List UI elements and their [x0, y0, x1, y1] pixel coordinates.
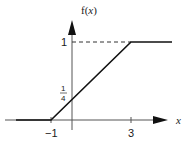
- y-axis-arrow-icon: [68, 20, 76, 35]
- x-axis-label: x: [175, 114, 181, 126]
- y-axis-label: f(x): [81, 4, 97, 17]
- function-line: [16, 42, 172, 120]
- x-axis-arrow-icon: [153, 116, 168, 124]
- x-tick-label-3: 3: [128, 127, 134, 139]
- y-tick-label-quarter-den: 4: [61, 94, 66, 103]
- chart: f(x) x 1 1 4 −1 3: [0, 0, 185, 144]
- x-tick-label-neg1: −1: [45, 127, 58, 139]
- y-tick-label-quarter-num: 1: [61, 84, 66, 93]
- y-tick-label-1: 1: [61, 36, 67, 48]
